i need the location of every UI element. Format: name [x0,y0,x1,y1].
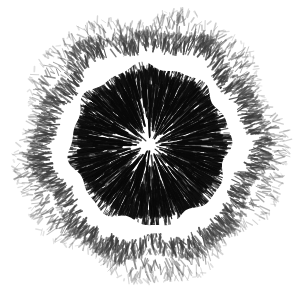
radial-burst-illustration: Radial Burst Pattern Monochrome radial b… [0,0,303,301]
artwork-canvas: Radial Burst Pattern Monochrome radial b… [0,0,303,301]
center-dot [146,141,154,149]
center-dot-layer [144,139,156,151]
